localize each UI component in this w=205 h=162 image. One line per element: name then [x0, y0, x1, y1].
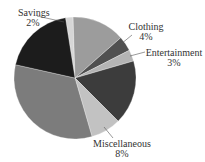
- entertainment-label-pct: 3%: [143, 58, 205, 68]
- pie-slices: [14, 17, 136, 139]
- savings-label-pct: 2%: [18, 18, 48, 28]
- clothing-label-pct: 4%: [126, 32, 166, 42]
- entertainment-label: Entertainment 3%: [143, 48, 205, 68]
- miscellaneous-label: Miscellaneous 8%: [92, 139, 152, 159]
- savings-label: Savings 2%: [18, 8, 48, 28]
- clothing-label: Clothing 4%: [126, 22, 166, 42]
- miscellaneous-label-pct: 8%: [92, 149, 152, 159]
